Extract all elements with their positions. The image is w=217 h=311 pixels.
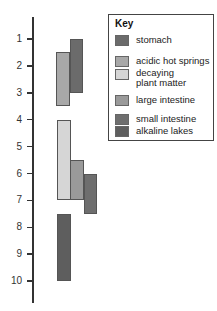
y-tick [27, 227, 33, 229]
legend-label: acidic hot springs [136, 56, 214, 66]
y-tick-label: 3 [2, 88, 22, 98]
y-tick [27, 65, 33, 67]
legend-label: small intestine [136, 114, 214, 124]
y-tick [27, 253, 33, 255]
swatch-decaying-plant-matter [115, 69, 129, 80]
y-tick [27, 280, 33, 282]
bar-small-intestine [84, 174, 97, 214]
y-tick-label: 1 [2, 34, 22, 44]
swatch-stomach [115, 35, 129, 46]
bar-large-intestine [70, 160, 84, 200]
range-chart: 12345678910 Key stomach acidic hot sprin… [0, 0, 217, 311]
y-tick-label: 9 [2, 249, 22, 259]
legend-label: large intestine [136, 95, 214, 105]
y-tick-label: 8 [2, 222, 22, 232]
y-tick [27, 146, 33, 148]
legend-label: alkaline lakes [136, 126, 214, 136]
swatch-acidic-hot-springs [115, 56, 129, 67]
y-tick-label: 7 [2, 195, 22, 205]
legend-title: Key [115, 18, 133, 29]
legend-label: decaying plant matter [136, 68, 214, 88]
y-tick-label: 5 [2, 142, 22, 152]
y-tick-label: 10 [2, 276, 22, 286]
y-tick [27, 119, 33, 121]
y-tick [27, 173, 33, 175]
swatch-small-intestine [115, 114, 129, 125]
bar-decaying-plant-matter [57, 120, 71, 201]
swatch-large-intestine [115, 95, 129, 106]
y-tick [27, 200, 33, 202]
y-tick [27, 92, 33, 94]
y-tick-label: 2 [2, 61, 22, 71]
bar-alkaline-lakes [57, 214, 71, 281]
swatch-alkaline-lakes [115, 126, 129, 137]
bar-stomach [70, 39, 83, 93]
y-tick-label: 6 [2, 169, 22, 179]
y-axis [32, 17, 34, 303]
legend-label: stomach [136, 35, 214, 45]
bar-acidic-hot-springs [56, 52, 70, 106]
y-tick-label: 4 [2, 115, 22, 125]
y-tick [27, 38, 33, 40]
legend: Key stomach acidic hot springs decaying … [108, 14, 214, 141]
